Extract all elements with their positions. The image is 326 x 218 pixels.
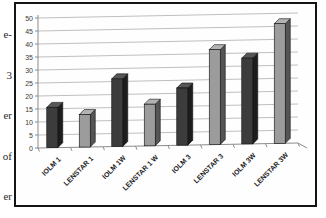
- y-gridline: [38, 26, 298, 31]
- x-category-label: LENSTAR 1: [62, 155, 94, 187]
- bar-side-face: [285, 19, 290, 144]
- bar-side-face: [58, 102, 63, 147]
- x-tick-mark: [71, 147, 73, 151]
- bar-iolm-1w: [112, 74, 128, 147]
- y-gridline: [38, 104, 298, 109]
- bar-lenstar-1-w: [144, 99, 160, 146]
- y-tick-label: 35: [25, 54, 33, 61]
- bar-front-face: [47, 107, 58, 147]
- bar-iolm-1: [47, 102, 63, 147]
- y-tick-label: 50: [25, 15, 33, 22]
- bar-chart-3d: 05101520253035404550IOLM 1LENSTAR 1IOLM …: [16, 4, 315, 205]
- y-gridline: [38, 91, 298, 96]
- x-category-label: IOLM 3W: [231, 151, 257, 177]
- x-tick-mark: [266, 144, 268, 148]
- x-tick-mark: [38, 148, 40, 152]
- x-category-label: LENSTAR 3W: [253, 151, 290, 188]
- margin-fragment: e-: [0, 28, 12, 42]
- bar-side-face: [123, 74, 128, 147]
- left-margin-text-fragments: e- 3 er of er: [0, 1, 12, 218]
- x-category-label: IOLM 1W: [101, 154, 127, 180]
- chart-frame: 05101520253035404550IOLM 1LENSTAR 1IOLM …: [14, 2, 317, 207]
- bar-front-face: [112, 79, 123, 147]
- bar-iolm-3w: [242, 53, 258, 144]
- y-tick-label: 5: [29, 132, 33, 139]
- x-category-label: IOLM 1: [41, 155, 63, 177]
- x-tick-mark: [103, 147, 105, 151]
- bar-iolm-3: [177, 83, 193, 145]
- y-gridline: [38, 52, 298, 57]
- x-category-label: IOLM 3: [171, 153, 193, 175]
- y-gridline: [38, 117, 298, 122]
- bar-side-face: [220, 45, 225, 145]
- x-tick-mark: [136, 146, 138, 150]
- bar-front-face: [274, 24, 285, 144]
- y-tick-label: 15: [25, 106, 33, 113]
- y-tick-label: 20: [25, 93, 33, 100]
- y-gridline: [38, 13, 298, 18]
- margin-fragment: er: [0, 109, 12, 123]
- bar-side-face: [90, 110, 95, 148]
- margin-fragment: of: [0, 150, 12, 164]
- bar-side-face: [155, 99, 160, 146]
- y-tick-label: 30: [25, 67, 33, 74]
- x-tick-mark: [233, 144, 235, 148]
- bar-front-face: [144, 104, 155, 146]
- y-tick-label: 45: [25, 28, 33, 35]
- bar-front-face: [242, 58, 253, 144]
- bar-side-face: [188, 83, 193, 145]
- page-canvas: e- 3 er of er 05101520253035404550IOLM 1…: [0, 0, 326, 218]
- x-category-label: LENSTAR 3: [192, 152, 224, 184]
- bar-lenstar-1: [79, 110, 95, 148]
- bar-front-face: [177, 88, 188, 145]
- y-gridline: [38, 78, 298, 83]
- bar-lenstar-3: [209, 45, 225, 145]
- margin-fragment: er: [0, 190, 12, 204]
- y-tick-label: 40: [25, 41, 33, 48]
- y-tick-label: 25: [25, 80, 33, 87]
- x-tick-mark: [168, 146, 170, 150]
- y-tick-label: 10: [25, 119, 33, 126]
- bar-front-face: [79, 115, 90, 148]
- x-tick-mark: [201, 145, 203, 149]
- y-gridline: [38, 65, 298, 70]
- x-category-label: LENSTAR 1 W: [121, 153, 159, 191]
- bar-lenstar-3w: [274, 19, 290, 144]
- y-gridline: [38, 130, 298, 135]
- y-tick-label: 0: [29, 145, 33, 152]
- bar-front-face: [209, 50, 220, 145]
- bar-side-face: [253, 53, 258, 144]
- y-gridline: [38, 39, 298, 44]
- margin-fragment: 3: [0, 69, 12, 83]
